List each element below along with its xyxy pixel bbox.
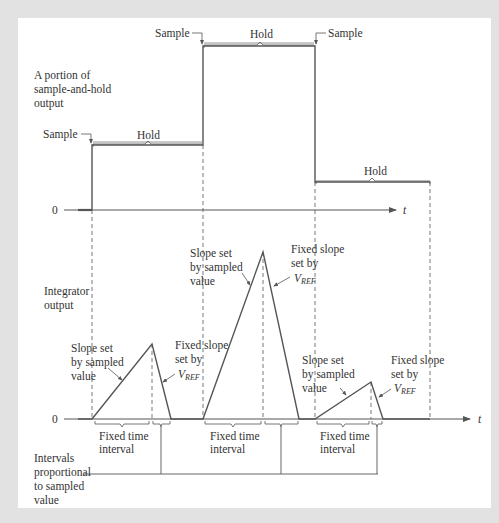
sample-pointer-1 — [81, 134, 91, 143]
fixed-brace-2 — [205, 421, 261, 427]
sh-waveform — [92, 46, 430, 210]
sample-hold-plot: A portion of sample-and-hold output 0 t … — [34, 27, 430, 216]
slope-sampled-3-line-1: Slope set — [302, 354, 345, 367]
fixed-slope-3-line-2: set by — [391, 368, 418, 381]
int-axis-t-label: t — [478, 413, 482, 425]
hold-label-2: Hold — [250, 28, 273, 40]
fixed-slope-2-line-1: Fixed slope — [291, 243, 344, 256]
vref-pointer-3 — [379, 389, 391, 397]
slope-sampled-2-line-3: value — [190, 275, 215, 287]
fixed-brace-3 — [317, 421, 369, 427]
slope-sampled-1-line-3: value — [71, 370, 96, 382]
sample-label-3: Sample — [328, 27, 363, 40]
slope-pointer-2 — [242, 273, 250, 285]
hold-label-1: Hold — [137, 129, 160, 141]
proportional-label-line-1: Intervals — [34, 452, 75, 464]
var-brace-1 — [153, 421, 170, 427]
sample-pointer-2 — [192, 33, 202, 44]
var-brace-2 — [265, 421, 298, 427]
slope-sampled-3-line-2: by sampled — [302, 368, 355, 381]
sh-zero-label: 0 — [52, 204, 58, 216]
vref-1: VREF — [178, 368, 200, 382]
sh-label-line-1: A portion of — [34, 69, 90, 82]
vref-3: VREF — [394, 382, 416, 396]
slope-pointer-1 — [108, 368, 122, 380]
interval-braces — [95, 421, 382, 427]
fixed-interval-2-line-2: interval — [210, 443, 245, 455]
vref-pointer-2 — [274, 277, 290, 286]
slope-sampled-2-line-1: Slope set — [190, 247, 233, 260]
fixed-interval-1-line-2: interval — [99, 443, 134, 455]
sh-label-line-2: sample-and-hold — [34, 83, 112, 96]
integrator-label-line-1: Integrator — [44, 285, 90, 298]
integrator-label-line-2: output — [44, 299, 74, 312]
slope-sampled-2-line-2: by sampled — [190, 261, 243, 274]
fixed-interval-3-line-1: Fixed time — [320, 430, 370, 442]
int-zero-label: 0 — [52, 413, 58, 425]
slope-pointer-3 — [340, 388, 346, 395]
integrator-plot: Integrator output 0 t Slope set by sampl… — [34, 243, 482, 506]
proportional-label-line-4: value — [34, 494, 59, 506]
fixed-interval-3-line-2: interval — [320, 443, 355, 455]
proportional-label-line-3: to sampled — [34, 480, 84, 493]
sh-axis-t-label: t — [403, 204, 407, 216]
hold-brace-3 — [316, 178, 430, 184]
sample-pointer-3 — [316, 33, 326, 44]
slope-sampled-1-line-2: by sampled — [71, 356, 124, 369]
fixed-interval-1-line-1: Fixed time — [99, 430, 149, 442]
fixed-slope-1-line-1: Fixed slope — [175, 339, 228, 352]
vref-pointer-1 — [163, 374, 175, 382]
fixed-slope-1-line-2: set by — [175, 353, 202, 366]
vref-2: VREF — [294, 272, 316, 286]
sample-hold-integrator-diagram: A portion of sample-and-hold output 0 t … — [0, 0, 499, 523]
fixed-interval-2-line-1: Fixed time — [210, 430, 260, 442]
fixed-brace-1 — [95, 421, 149, 427]
proportional-label-line-2: proportional — [34, 466, 91, 479]
slope-sampled-3-line-3: value — [302, 382, 327, 394]
sample-label-2: Sample — [155, 27, 190, 40]
slope-sampled-1-line-1: Slope set — [71, 342, 114, 355]
integrator-waveform — [78, 252, 430, 419]
hold-label-3: Hold — [364, 165, 387, 177]
fixed-slope-3-line-1: Fixed slope — [391, 354, 444, 367]
var-brace-3 — [372, 421, 382, 427]
sh-label-line-3: output — [34, 97, 64, 110]
sample-label-1: Sample — [43, 128, 78, 141]
dashed-guides — [92, 145, 430, 419]
fixed-slope-2-line-2: set by — [291, 257, 318, 270]
